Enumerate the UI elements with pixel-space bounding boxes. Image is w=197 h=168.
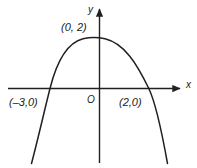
label-y-axis: y [88, 5, 93, 15]
parabola-plot-svg [0, 0, 197, 168]
graph-figure: (0, 2) (–3,0) (2,0) O y x [0, 0, 197, 168]
label-vertex-point: (0, 2) [61, 22, 87, 33]
label-x-intercept-right: (2,0) [119, 97, 142, 108]
label-origin: O [87, 95, 95, 105]
label-x-intercept-left: (–3,0) [9, 97, 38, 108]
label-x-axis: x [186, 80, 191, 90]
